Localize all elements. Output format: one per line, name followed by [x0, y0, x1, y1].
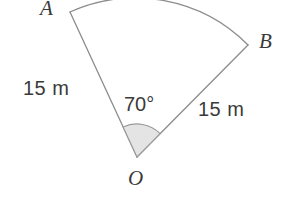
radius-measure-left: 15 m [23, 78, 69, 98]
central-angle-label: 70° [124, 94, 154, 114]
sector-diagram-figure: A B O 15 m 15 m 70° [0, 0, 284, 199]
radius-measure-right: 15 m [198, 99, 244, 119]
vertex-label-a: A [40, 0, 53, 19]
vertex-label-o: O [128, 168, 143, 189]
vertex-label-b: B [259, 31, 272, 52]
